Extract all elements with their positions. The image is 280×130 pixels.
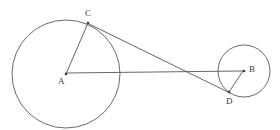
point-label-c: C bbox=[85, 9, 91, 18]
point-B bbox=[243, 70, 246, 73]
points-group bbox=[65, 22, 246, 94]
circles-group bbox=[12, 20, 270, 128]
segments-group bbox=[66, 23, 243, 93]
diagram-canvas bbox=[0, 0, 280, 130]
segment-BD bbox=[229, 71, 243, 92]
geometry-diagram: A B C D bbox=[0, 0, 280, 130]
point-A bbox=[65, 73, 68, 76]
point-label-d: D bbox=[226, 97, 233, 106]
point-label-b: B bbox=[249, 65, 255, 74]
point-D bbox=[228, 91, 231, 94]
segment-AB bbox=[66, 71, 243, 73]
point-label-a: A bbox=[58, 77, 65, 86]
segment-AC bbox=[66, 23, 88, 74]
point-C bbox=[87, 22, 90, 25]
segment-CD bbox=[89, 24, 230, 93]
